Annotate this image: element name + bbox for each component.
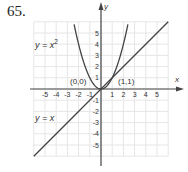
x-tick-label: -2 <box>75 91 81 98</box>
x-tick-label: 1 <box>110 91 114 98</box>
y-tick-label: -3 <box>93 119 99 126</box>
x-tick-label: -4 <box>53 91 59 98</box>
y-tick-label: 4 <box>95 41 99 48</box>
parabola-equation-label: y = x2 <box>34 38 58 50</box>
y-tick-label: 5 <box>95 30 99 37</box>
x-tick-label: 5 <box>155 91 159 98</box>
origin-point-label: (0,0) <box>70 77 87 86</box>
x-tick-label: 3 <box>133 91 137 98</box>
x-axis-label: x <box>174 75 180 84</box>
y-tick-label: -5 <box>93 142 99 149</box>
y-axis-arrow-icon <box>99 2 104 10</box>
graph: -5-4-3-2-11234554321-1-2-3-4-5 x y y = x… <box>0 0 188 172</box>
y-tick-label: 1 <box>95 74 99 81</box>
y-tick-label: -1 <box>93 97 99 104</box>
x-tick-label: 2 <box>121 91 125 98</box>
x-tick-label: -3 <box>64 91 70 98</box>
y-tick-label: -4 <box>93 130 99 137</box>
one-one-point-label: (1,1) <box>118 77 135 86</box>
y-tick-label: 2 <box>95 63 99 70</box>
x-tick-label: -5 <box>42 91 48 98</box>
x-tick-label: 4 <box>144 91 148 98</box>
x-axis-arrow-icon <box>176 87 184 92</box>
y-tick-label: -2 <box>93 108 99 115</box>
y-axis-label: y <box>103 2 109 11</box>
y-tick-label: 3 <box>95 52 99 59</box>
line-equation-label: y = x <box>34 113 55 123</box>
